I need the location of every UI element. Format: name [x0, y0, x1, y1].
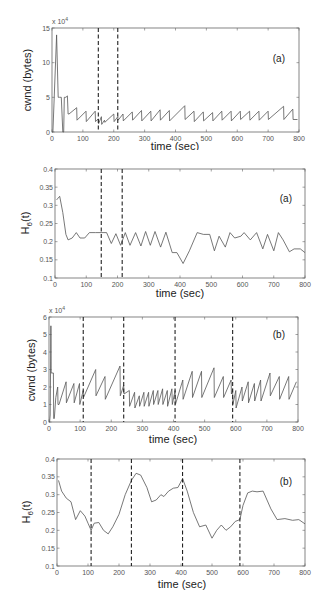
panel-tag: (a) [280, 193, 292, 204]
x-tick-label: 600 [230, 425, 242, 432]
series-line [49, 326, 296, 422]
series-line [59, 473, 306, 538]
x-tick-label: 800 [299, 569, 311, 576]
y-tick-label: 3 [43, 366, 47, 373]
x-axis-label: time (sec) [156, 287, 204, 299]
x-tick-label: 200 [105, 425, 117, 432]
y-tick-label: 15 [42, 25, 50, 32]
panel-tag: (a) [273, 53, 285, 64]
y-axis-label: H6(t) [19, 212, 34, 235]
panel-a-hurst: 01002003004005006007008000.10.150.20.250… [0, 150, 322, 300]
x-tick-label: 300 [143, 281, 155, 288]
x-tick-label: 200 [112, 281, 124, 288]
x-tick-label: 500 [201, 135, 213, 142]
y-tick-label: 0 [43, 419, 47, 426]
y-tick-label: 4 [43, 349, 47, 356]
y-multiplier: x 104 [52, 16, 68, 25]
y-tick-label: 0 [46, 129, 50, 136]
y-tick-label: 0.2 [43, 238, 53, 245]
x-tick-label: 800 [293, 135, 305, 142]
chart-b-hurst: 01002003004005006007008000.10.150.20.250… [0, 448, 322, 599]
y-tick-label: 2 [43, 384, 47, 391]
x-tick-label: 0 [55, 569, 59, 576]
y-tick-label: 0.4 [43, 166, 53, 173]
series-line [57, 196, 305, 263]
y-tick-label: 6 [43, 314, 47, 321]
x-tick-label: 300 [137, 425, 149, 432]
x-tick-label: 800 [299, 281, 311, 288]
x-tick-label: 500 [206, 569, 218, 576]
x-tick-label: 100 [77, 135, 89, 142]
x-tick-label: 600 [231, 135, 243, 142]
x-tick-label: 100 [74, 425, 86, 432]
y-tick-label: 10 [42, 59, 50, 66]
y-tick-label: 0.15 [39, 256, 53, 263]
y-tick-label: 1 [43, 401, 47, 408]
chart-b-cwnd: 01002003004005006007008000123456 x 104 (… [0, 300, 322, 448]
y-tick-label: 0.35 [39, 184, 53, 191]
chart-a-hurst: 01002003004005006007008000.10.150.20.250… [0, 150, 322, 300]
x-axis-label: time (sec) [151, 140, 199, 150]
x-tick-label: 700 [268, 569, 280, 576]
y-tick-label: 5 [43, 331, 47, 338]
x-tick-label: 300 [144, 569, 156, 576]
x-tick-label: 700 [262, 135, 274, 142]
x-tick-label: 600 [237, 569, 249, 576]
plot-frame [55, 169, 305, 278]
plot-frame [49, 317, 298, 422]
x-tick-label: 100 [80, 281, 92, 288]
x-tick-label: 700 [268, 281, 280, 288]
x-tick-label: 0 [47, 425, 51, 432]
chart-a-cwnd: 0100200300400500600700800051015 x 104 (a… [0, 0, 322, 150]
x-tick-label: 500 [205, 281, 217, 288]
y-tick-label: 0.15 [41, 545, 55, 552]
y-axis-label: cwnd (bytes) [25, 339, 37, 401]
y-tick-label: 0.25 [41, 509, 55, 516]
x-tick-label: 200 [113, 569, 125, 576]
x-tick-label: 500 [199, 425, 211, 432]
y-axis-label: H6(t) [20, 501, 35, 524]
y-tick-label: 0.1 [45, 563, 55, 570]
y-tick-label: 0.4 [45, 456, 55, 463]
y-tick-label: 0.35 [41, 473, 55, 480]
x-tick-label: 300 [139, 135, 151, 142]
x-tick-label: 700 [261, 425, 273, 432]
panel-tag: (b) [280, 476, 292, 487]
x-axis-label: time (sec) [158, 578, 206, 590]
y-multiplier: x 104 [49, 305, 65, 314]
x-tick-label: 0 [50, 135, 54, 142]
x-axis-label: time (sec) [149, 433, 197, 445]
y-tick-label: 0.2 [45, 527, 55, 534]
plot-frame [57, 459, 305, 566]
y-tick-label: 0.3 [43, 202, 53, 209]
panel-b-cwnd: 01002003004005006007008000123456 x 104 (… [0, 300, 322, 448]
x-tick-label: 800 [292, 425, 304, 432]
y-axis-label: cwnd (bytes) [21, 49, 33, 111]
x-tick-label: 100 [82, 569, 94, 576]
y-tick-label: 0.1 [43, 275, 53, 282]
plot-frame [52, 28, 299, 132]
x-tick-label: 200 [108, 135, 120, 142]
x-tick-label: 400 [168, 425, 180, 432]
panel-tag: (b) [273, 329, 285, 340]
panel-a-cwnd: 0100200300400500600700800051015 x 104 (a… [0, 0, 322, 150]
x-tick-label: 600 [237, 281, 249, 288]
y-tick-label: 5 [46, 94, 50, 101]
y-tick-label: 0.25 [39, 220, 53, 227]
x-tick-label: 400 [175, 569, 187, 576]
y-tick-label: 0.3 [45, 491, 55, 498]
x-tick-label: 0 [53, 281, 57, 288]
series-line [52, 35, 298, 132]
panel-b-hurst: 01002003004005006007008000.10.150.20.250… [0, 448, 322, 599]
